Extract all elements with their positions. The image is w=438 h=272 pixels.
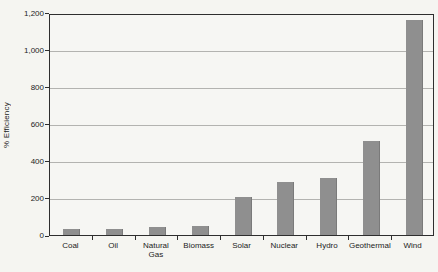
x-tick-mark [92,236,93,240]
gridline-1000 [50,51,433,52]
bar-solar [235,197,252,235]
x-tick-mark [135,236,136,240]
x-tick-mark [220,236,221,240]
gridline-800 [50,88,433,89]
x-category-label: Coal [49,241,92,250]
y-tick-mark-800 [45,87,49,88]
x-category-label: Nuclear [263,241,306,250]
x-category-label: Wind [391,241,434,250]
y-tick-mark-0 [45,236,49,237]
y-tick-label-0: 0 [4,231,44,241]
x-category-label: Biomass [177,241,220,250]
y-tick-mark-1000 [45,50,49,51]
y-tick-label-400: 400 [4,157,44,167]
plot-area [49,14,434,236]
x-category-label: Solar [220,241,263,250]
x-tick-mark [263,236,264,240]
bar-coal [63,229,80,235]
x-tick-mark [391,236,392,240]
y-tick-mark-1200 [45,13,49,14]
y-tick-label-1200: 1,200 [4,9,44,19]
gridline-600 [50,125,433,126]
efficiency-bar-chart: % Efficiency 02004006008001,0001,200Coal… [0,0,438,272]
x-tick-mark [306,236,307,240]
y-tick-mark-200 [45,198,49,199]
bar-wind [406,20,423,235]
y-tick-mark-600 [45,124,49,125]
x-tick-mark [177,236,178,240]
y-tick-mark-400 [45,161,49,162]
bar-biomass [192,226,209,235]
x-category-label: Oil [92,241,135,250]
y-tick-label-1000: 1,000 [4,46,44,56]
x-category-label: Natural Gas [135,241,178,259]
bar-geothermal [363,141,380,235]
bar-oil [106,229,123,235]
x-tick-mark [348,236,349,240]
x-category-label: Geothermal [348,241,391,250]
bar-natural-gas [149,227,166,235]
y-tick-label-200: 200 [4,194,44,204]
bar-nuclear [277,182,294,235]
y-tick-label-800: 800 [4,83,44,93]
x-category-label: Hydro [306,241,349,250]
y-tick-label-600: 600 [4,120,44,130]
bar-hydro [320,178,337,235]
